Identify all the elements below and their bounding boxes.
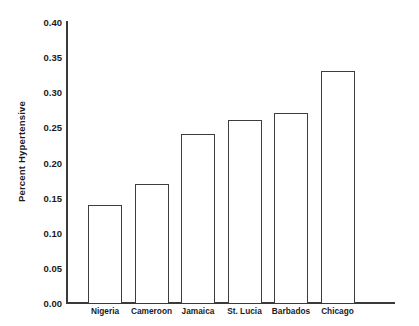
y-axis-tick-label: 0.00: [44, 298, 63, 309]
bar-group: [228, 22, 262, 303]
plot-area: [66, 22, 395, 303]
bar-group: [135, 22, 169, 303]
bar-group: [88, 22, 122, 303]
y-axis-tick-label: 0.40: [44, 17, 63, 28]
bar: [88, 205, 122, 303]
y-axis-tick-label: 0.05: [44, 262, 63, 273]
y-axis-tick-label: 0.30: [44, 87, 63, 98]
y-axis-tick-label: 0.20: [44, 157, 63, 168]
bar-group: [181, 22, 215, 303]
bar: [274, 113, 308, 303]
y-axis-tick-label: 0.25: [44, 122, 63, 133]
bar: [135, 184, 169, 303]
bar-group: [321, 22, 355, 303]
bar: [321, 71, 355, 303]
bar-chart: Percent Hypertensive 0.000.050.100.150.2…: [0, 0, 419, 326]
y-axis-tick-label: 0.10: [44, 227, 63, 238]
x-axis-tick-label: Chicago: [298, 306, 378, 316]
y-axis-tick-labels: 0.000.050.100.150.200.250.300.350.40: [0, 0, 62, 326]
bar: [181, 134, 215, 303]
bar-group: [274, 22, 308, 303]
bar: [228, 120, 262, 303]
y-axis-tick-label: 0.35: [44, 52, 63, 63]
y-axis-tick-label: 0.15: [44, 192, 63, 203]
